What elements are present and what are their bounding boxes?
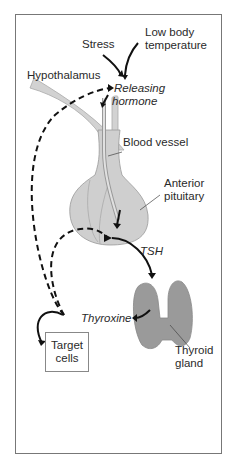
low-body-temperature-label-line2: temperature [145, 39, 207, 52]
target-cells-label-line1: Target [46, 339, 88, 352]
anterior-pituitary-label-line1: Anterior [164, 177, 204, 190]
thyroxine-label: Thyroxine [81, 312, 132, 325]
anterior-pituitary-label-line2: pituitary [164, 190, 204, 203]
blood-vessel-label: Blood vessel [123, 136, 188, 149]
releasing-hormone-label-line2: hormone [112, 95, 157, 108]
target-cells-label-line2: cells [46, 352, 88, 365]
stress-label: Stress [82, 38, 115, 51]
releasing-hormone-label-line1: Releasing [114, 82, 165, 95]
target-cells-box: Target cells [45, 332, 89, 372]
thyroid-gland-label-line2: gland [175, 357, 203, 370]
tsh-label: TSH [140, 245, 163, 258]
low-body-temperature-label-line1: Low body [145, 26, 194, 39]
thyroid-shape [133, 281, 192, 349]
thyroid-gland-label-line1: Thyroid [175, 344, 213, 357]
hypothalamus-label: Hypothalamus [27, 69, 101, 82]
